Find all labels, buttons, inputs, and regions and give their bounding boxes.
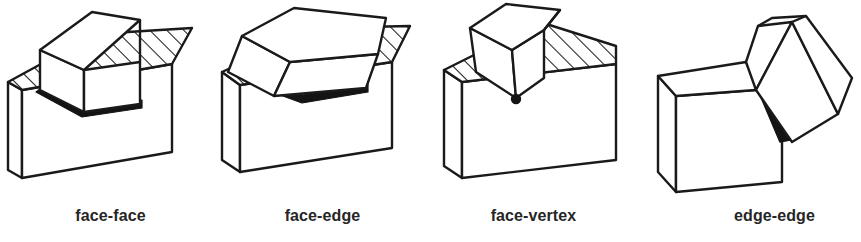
cube-right-face	[84, 62, 140, 112]
contact-type-figure: face-face face-edge	[0, 0, 861, 242]
base-left-face	[8, 82, 22, 178]
face-edge-illustration	[210, 0, 425, 206]
base-left-face	[222, 72, 240, 172]
panel-face-edge: face-edge	[210, 0, 425, 242]
edge-edge-illustration	[640, 0, 861, 206]
panel-label-edge-edge: edge-edge	[640, 206, 861, 226]
contact-vertex-dot	[511, 94, 521, 104]
panel-label-face-vertex: face-vertex	[420, 206, 635, 226]
panel-label-face-face: face-face	[0, 206, 215, 226]
panel-face-vertex: face-vertex	[420, 0, 635, 242]
base-left-face	[444, 70, 462, 178]
face-face-illustration	[0, 0, 215, 206]
panel-label-face-edge: face-edge	[210, 206, 425, 226]
panel-edge-edge: edge-edge	[640, 0, 861, 242]
panel-face-face: face-face	[0, 0, 215, 242]
face-vertex-illustration	[420, 0, 635, 206]
